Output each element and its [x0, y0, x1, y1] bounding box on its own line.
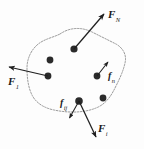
- label-symbol: F: [8, 75, 15, 87]
- label-subscript: 1: [16, 83, 19, 90]
- label-symbol: F: [98, 122, 105, 134]
- label-force-external-left: F1: [8, 76, 19, 90]
- arrow-F-N: [74, 14, 104, 49]
- label-subscript: ij: [64, 104, 68, 111]
- label-force-external-bottom-right: Fi: [98, 123, 107, 137]
- arrow-F-i: [79, 101, 96, 137]
- force-diagram-canvas: [0, 0, 144, 149]
- arrow-f-n: [97, 62, 108, 76]
- label-symbol: f: [108, 70, 111, 81]
- particle-lower-right: [100, 95, 107, 102]
- label-force-internal-bottom: fij: [60, 98, 67, 111]
- label-force-external-top-right: FN: [108, 9, 120, 23]
- force-diagram-figure: FN F1 Fi fn fij: [0, 0, 144, 149]
- label-symbol: f: [60, 97, 63, 108]
- arrow-f-ij: [70, 101, 80, 118]
- label-symbol: F: [108, 8, 115, 20]
- particle-upper-left: [47, 57, 54, 64]
- label-force-internal-right: fn: [108, 71, 115, 84]
- label-subscript: N: [116, 16, 120, 23]
- label-subscript: n: [112, 77, 115, 84]
